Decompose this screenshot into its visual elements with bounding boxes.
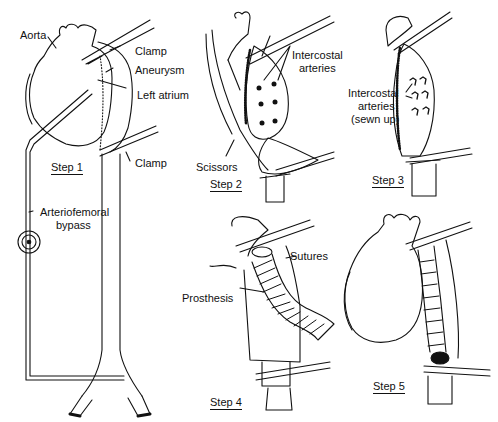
step4-label: Step 4 [210,396,242,410]
label-bypass-line1: Arteriofemoral [40,206,109,218]
intercostal-dots [257,82,278,126]
step4-drawing [210,217,334,410]
label-sewn-line1: Intercostal [348,87,399,99]
step5-label: Step 5 [373,380,405,394]
label-sewn-line2: arteries [358,100,395,112]
bypass-tube [26,90,124,380]
label-bypass-line2: bypass [56,219,91,231]
step2-label: Step 2 [210,178,242,192]
graft-ribs-5 [420,260,444,346]
label-left-atrium: Left atrium [137,89,189,101]
label-clamp-top: Clamp [135,45,167,57]
label-scissors: Scissors [196,161,238,173]
label-prosthesis: Prosthesis [182,292,233,304]
aneurysm [98,42,132,152]
clamp-bottom [100,126,158,156]
heart-outline-5 [345,214,423,342]
label-aneurysm: Aneurysm [135,64,185,76]
step2-drawing [206,12,334,202]
step5-drawing [344,214,490,404]
label-intercostal-line2: arteries [299,62,336,74]
step3-drawing [386,12,472,196]
graft-ribs [254,260,324,334]
step3-label: Step 3 [372,174,404,188]
descending-aorta [82,154,142,396]
step1-label: Step 1 [51,161,83,175]
label-clamp-bottom: Clamp [135,157,167,169]
step1-drawing [18,20,158,416]
label-sewn-line3: (sewn up) [351,113,399,125]
opened-aneurysm [246,46,288,139]
graft-in-situ [418,240,459,358]
label-sutures: Sutures [290,250,328,262]
label-intercostal-line1: Intercostal [292,49,343,61]
scissors [206,30,268,170]
sutured-ostia [410,77,429,115]
label-aorta: Aorta [20,29,46,41]
